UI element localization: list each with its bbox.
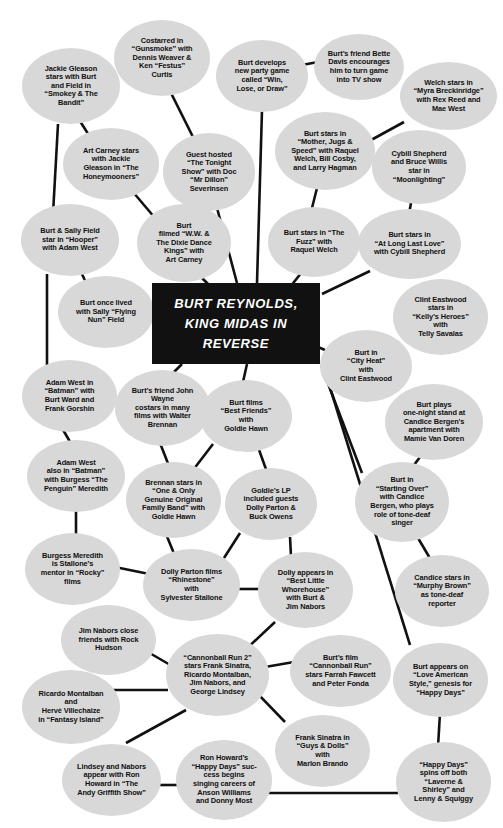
node-label: Burt stars in “The Fuzz” with Raquel Wel… bbox=[280, 229, 349, 255]
node-label: Burt’s friend John Wayne costars in many… bbox=[128, 387, 198, 430]
node-label: Dolly Parton films “Rhinestone” with Syl… bbox=[157, 568, 227, 602]
node-sally-flying-nun[interactable]: Burt once lived with Sally “Flying Nun” … bbox=[58, 276, 154, 348]
node-label: Cybill Shepherd and Bruce Willis star in… bbox=[387, 150, 451, 184]
node-label: Burt develops new party game called “Win… bbox=[231, 59, 293, 93]
node-label: Ricardo Montalban and Hervé Villechaize … bbox=[34, 690, 107, 724]
node-label: Clint Eastwood stars in “Kelly’s Heroes”… bbox=[408, 296, 472, 339]
edge-cannonball-run-2-to-lindsey-nabors-andy-griffith bbox=[126, 710, 186, 743]
node-burgess-meredith-rocky[interactable]: Burgess Meredith is Stallone’s mentor in… bbox=[25, 533, 120, 605]
node-label: Lindsey and Nabors appear with Ron Howar… bbox=[73, 763, 150, 797]
node-candice-murphy-brown[interactable]: Candice stars in “Murphy Brown” as tone-… bbox=[395, 555, 489, 627]
node-jim-nabors-rock-hudson[interactable]: Jim Nabors close friends with Rock Hudso… bbox=[61, 605, 156, 675]
node-welch-myra-breckinridge[interactable]: Welch stars in “Myra Breckinridge” with … bbox=[400, 62, 497, 130]
node-starting-over[interactable]: Burt in “Starting Over” with Candice Ber… bbox=[355, 462, 449, 542]
node-love-american-style[interactable]: Burt appears on “Love American Style,” g… bbox=[393, 643, 488, 717]
node-label: Burt in “City Heat” with Clint Eastwood bbox=[336, 349, 396, 383]
node-ron-howard-happy-days[interactable]: Ron Howard’s “Happy Days” suc- cess begi… bbox=[176, 740, 272, 820]
node-label: Burt’s film “Cannonball Run” stars Farra… bbox=[301, 654, 379, 688]
node-adam-west-penguin[interactable]: Adam West also in “Batman” with Burgess … bbox=[27, 440, 125, 512]
edge-jackie-gleason-smokey-to-burt-sally-hooper bbox=[53, 124, 58, 214]
node-dolly-rhinestone[interactable]: Dolly Parton films “Rhinestone” with Syl… bbox=[143, 549, 240, 621]
node-adam-west-batman[interactable]: Adam West in “Batman” with Burt Ward and… bbox=[22, 360, 117, 432]
edge-burt-develops-party-game-to-center bbox=[257, 110, 262, 283]
node-label: Costarred in “Gunsmoke” with Dennis Weav… bbox=[128, 37, 197, 80]
node-label: Goldie’s LP included guests Dolly Parton… bbox=[240, 487, 303, 521]
node-happy-days-spinoffs[interactable]: “Happy Days” spins off both “Laverne & S… bbox=[396, 742, 491, 822]
node-label: Candice stars in “Murphy Brown” as tone-… bbox=[409, 574, 475, 608]
node-label: Burt films “Best Friends” with Goldie Ha… bbox=[217, 399, 276, 433]
node-guest-hosted-tonight-show[interactable]: Guest hosted “The Tonight Show” with Doc… bbox=[163, 133, 255, 211]
node-label: Jackie Gleason stars with Burt and Field… bbox=[40, 65, 101, 108]
node-cybill-bruce-moonlighting[interactable]: Cybill Shepherd and Bruce Willis star in… bbox=[372, 130, 466, 204]
node-dolly-best-little-whorehouse[interactable]: Dolly appears in “Best Little Whorehouse… bbox=[258, 552, 353, 628]
center-title-text: BURT REYNOLDS, KING MIDAS IN REVERSE bbox=[174, 294, 298, 354]
node-label: Burgess Meredith is Stallone’s mentor in… bbox=[37, 552, 109, 586]
node-label: Burt filmed “W.W. & The Dixie Dance King… bbox=[152, 222, 216, 265]
node-label: Burt appears on “Love American Style,” g… bbox=[405, 663, 476, 697]
node-label: Dolly appears in “Best Little Whorehouse… bbox=[274, 569, 338, 612]
node-ww-dixie-dance-kings[interactable]: Burt filmed “W.W. & The Dixie Dance King… bbox=[137, 204, 231, 282]
node-label: “Happy Days” spins off both “Laverne & S… bbox=[410, 761, 477, 804]
node-cannonball-run-2[interactable]: “Cannonball Run 2” stars Frank Sinatra, … bbox=[166, 634, 269, 716]
node-label: Burt stars in “Mother, Jugs & Speed” wit… bbox=[287, 130, 363, 173]
node-burt-sally-hooper[interactable]: Burt & Sally Field star in “Hooper” with… bbox=[21, 204, 119, 276]
node-label: Adam West also in “Batman” with Burgess … bbox=[40, 459, 112, 493]
node-bette-davis-encourages[interactable]: Burt’s friend Bette Davis encourages him… bbox=[314, 34, 404, 100]
node-costarred-gunsmoke[interactable]: Costarred in “Gunsmoke” with Dennis Weav… bbox=[114, 20, 210, 96]
node-label: Art Carney stars with Jackie Gleason in … bbox=[79, 147, 143, 181]
node-label: Burt once lived with Sally “Flying Nun” … bbox=[72, 299, 140, 325]
node-label: Welch stars in “Myra Breckinridge” with … bbox=[410, 79, 488, 113]
node-art-carney-honeymooners[interactable]: Art Carney stars with Jackie Gleason in … bbox=[63, 128, 159, 200]
center-title-box: BURT REYNOLDS, KING MIDAS IN REVERSE bbox=[152, 283, 320, 364]
node-montalban-fantasy-island[interactable]: Ricardo Montalban and Hervé Villechaize … bbox=[22, 670, 120, 744]
node-brennan-family-band[interactable]: Brennan stars in “One & Only Genuine Ori… bbox=[126, 462, 221, 538]
node-the-fuzz[interactable]: Burt stars in “The Fuzz” with Raquel Wel… bbox=[268, 207, 360, 277]
node-label: Adam West in “Batman” with Burt Ward and… bbox=[40, 379, 98, 413]
node-label: “Cannonball Run 2” stars Frank Sinatra, … bbox=[179, 654, 255, 697]
concept-map-canvas: Jackie Gleason stars with Burt and Field… bbox=[0, 0, 503, 828]
node-burt-develops-party-game[interactable]: Burt develops new party game called “Win… bbox=[216, 40, 308, 112]
node-label: Burt’s friend Bette Davis encourages him… bbox=[324, 50, 394, 84]
node-city-heat[interactable]: Burt in “City Heat” with Clint Eastwood bbox=[320, 330, 412, 402]
node-kellys-heroes[interactable]: Clint Eastwood stars in “Kelly’s Heroes”… bbox=[393, 279, 488, 355]
node-mother-jugs-speed[interactable]: Burt stars in “Mother, Jugs & Speed” wit… bbox=[275, 112, 375, 190]
node-best-friends-goldie[interactable]: Burt films “Best Friends” with Goldie Ha… bbox=[200, 380, 292, 452]
node-label: Brennan stars in “One & Only Genuine Ori… bbox=[138, 479, 209, 522]
node-label: Jim Nabors close friends with Rock Hudso… bbox=[75, 627, 143, 653]
node-jackie-gleason-smokey[interactable]: Jackie Gleason stars with Burt and Field… bbox=[22, 48, 120, 124]
node-label: Burt stars in “At Long Last Love” with C… bbox=[370, 231, 449, 257]
node-label: Frank Sinatra in “Guys & Dolls” with Mar… bbox=[291, 734, 353, 768]
node-john-wayne-walter-brennan[interactable]: Burt’s friend John Wayne costars in many… bbox=[115, 370, 210, 446]
node-cannonball-run[interactable]: Burt’s film “Cannonball Run” stars Farra… bbox=[290, 635, 391, 707]
node-label: Burt in “Starting Over” with Candice Ber… bbox=[366, 476, 438, 528]
node-lindsey-nabors-andy-griffith[interactable]: Lindsey and Nabors appear with Ron Howar… bbox=[62, 744, 161, 816]
node-burt-plays-one-night[interactable]: Burt plays one-night stand at Candice Be… bbox=[385, 384, 483, 460]
node-goldies-lp[interactable]: Goldie’s LP included guests Dolly Parton… bbox=[225, 468, 317, 540]
node-frank-sinatra-guys-dolls[interactable]: Frank Sinatra in “Guys & Dolls” with Mar… bbox=[275, 715, 370, 787]
node-label: Burt & Sally Field star in “Hooper” with… bbox=[36, 227, 103, 253]
node-label: Ron Howard’s “Happy Days” suc- cess begi… bbox=[187, 754, 260, 806]
node-label: Guest hosted “The Tonight Show” with Doc… bbox=[178, 151, 241, 194]
node-at-long-last-love[interactable]: Burt stars in “At Long Last Love” with C… bbox=[358, 209, 461, 279]
edge-goldies-lp-to-dolly-rhinestone bbox=[224, 533, 240, 558]
node-label: Burt plays one-night stand at Candice Be… bbox=[399, 401, 469, 444]
